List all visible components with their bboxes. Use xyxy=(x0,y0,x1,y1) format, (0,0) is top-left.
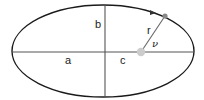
label-b: b xyxy=(95,18,101,30)
label-nu: ν xyxy=(152,38,158,49)
label-a: a xyxy=(65,54,72,66)
orbiting-body xyxy=(162,13,167,18)
orbit-ellipse xyxy=(12,5,194,97)
focus-point xyxy=(137,48,145,56)
label-c: c xyxy=(120,54,126,66)
orbit-diagram: b a c r ν xyxy=(0,0,204,100)
label-r: r xyxy=(147,24,151,36)
